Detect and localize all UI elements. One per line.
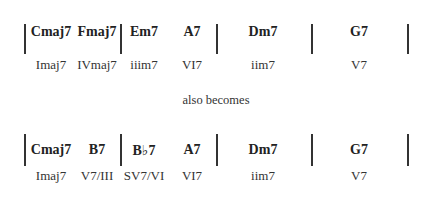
chord-symbol: G7 bbox=[350, 24, 368, 40]
connector-text: also becomes bbox=[183, 93, 250, 108]
barline bbox=[120, 24, 122, 54]
chord-symbol: A7 bbox=[183, 142, 200, 158]
barline bbox=[311, 134, 313, 166]
roman-numeral: iim7 bbox=[251, 57, 275, 73]
barline bbox=[216, 134, 218, 166]
roman-numeral: SV7/VI bbox=[124, 168, 164, 184]
chord-symbol: A7 bbox=[183, 24, 200, 40]
chord-symbol: Cmaj7 bbox=[31, 24, 71, 40]
roman-numeral: Imaj7 bbox=[36, 57, 66, 73]
chord-symbol: Dm7 bbox=[249, 24, 278, 40]
roman-numeral: iim7 bbox=[251, 168, 275, 184]
barline bbox=[311, 24, 313, 54]
barline bbox=[24, 24, 26, 54]
barline bbox=[120, 134, 122, 166]
barline bbox=[407, 24, 409, 54]
roman-numeral: VI7 bbox=[182, 57, 202, 73]
roman-numeral: Imaj7 bbox=[36, 168, 66, 184]
chord-symbol: Dm7 bbox=[249, 142, 278, 158]
barline bbox=[216, 24, 218, 54]
roman-numeral: V7 bbox=[351, 168, 367, 184]
roman-numeral: V7 bbox=[351, 57, 367, 73]
chord-symbol: G7 bbox=[350, 142, 368, 158]
chord-symbol: Em7 bbox=[130, 24, 158, 40]
chord-symbol: Cmaj7 bbox=[31, 142, 71, 158]
roman-numeral: VI7 bbox=[182, 168, 202, 184]
chord-symbol: B♭7 bbox=[133, 142, 156, 159]
chord-symbol: Fmaj7 bbox=[78, 24, 117, 40]
roman-numeral: IVmaj7 bbox=[77, 57, 117, 73]
roman-numeral: V7/III bbox=[81, 168, 114, 184]
barline bbox=[407, 134, 409, 166]
barline bbox=[24, 134, 26, 166]
roman-numeral: iiim7 bbox=[130, 57, 157, 73]
chord-symbol: B7 bbox=[89, 142, 105, 158]
